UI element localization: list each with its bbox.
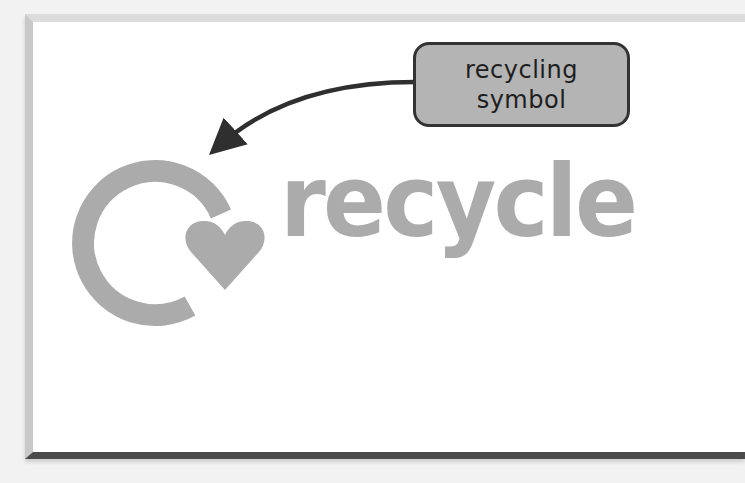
recycling-symbol-callout: recycling symbol [413,42,630,127]
callout-line-1: recycling [465,55,578,85]
callout-line-2: symbol [477,85,567,115]
recycle-wordmark: recycle [280,152,635,252]
heart-icon [185,221,264,290]
callout-arrow [219,82,415,146]
recycling-symbol-icon [83,171,264,315]
